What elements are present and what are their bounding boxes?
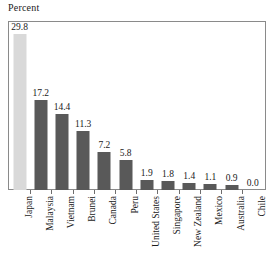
bar-slot: 11.3 — [73, 22, 94, 190]
chart-title: Percent — [8, 2, 39, 14]
bar-new-zealand[interactable] — [183, 183, 196, 190]
bar-value-label: 1.9 — [141, 168, 153, 179]
bar-brunei[interactable] — [77, 131, 90, 190]
axis-tick — [179, 190, 180, 194]
axis-tick — [136, 190, 137, 194]
bar-value-label: 14.4 — [54, 102, 71, 113]
bar-slot: 1.4 — [179, 22, 200, 190]
axis-tick — [30, 190, 31, 194]
bar-slot: 17.2 — [30, 22, 51, 190]
plot-area: 29.817.214.411.37.25.81.91.81.41.10.90.0 — [9, 22, 265, 190]
bar-united-states[interactable] — [140, 180, 153, 190]
category-label-new-zealand: New Zealand — [193, 196, 203, 247]
bar-slot: 1.9 — [136, 22, 157, 190]
axis-tick — [200, 190, 201, 194]
category-label-mexico: Mexico — [214, 196, 224, 225]
bar-singapore[interactable] — [161, 181, 174, 190]
bar-value-label: 17.2 — [32, 88, 49, 99]
bar-value-label: 0.0 — [247, 178, 259, 189]
bar-slot: 1.8 — [157, 22, 178, 190]
category-label-australia: Australia — [236, 196, 246, 231]
axis-tick — [221, 190, 222, 194]
bar-slot: 7.2 — [94, 22, 115, 190]
bar-slot: 0.0 — [242, 22, 263, 190]
bar-malaysia[interactable] — [34, 100, 47, 190]
axis-tick — [242, 190, 243, 194]
category-label-peru: Peru — [130, 196, 140, 213]
bar-value-label: 5.8 — [120, 148, 132, 159]
bar-value-label: 0.9 — [226, 173, 238, 184]
bar-slot: 14.4 — [51, 22, 72, 190]
bar-slot: 29.8 — [9, 22, 30, 190]
category-label-brunei: Brunei — [87, 196, 97, 222]
bar-slot: 1.1 — [200, 22, 221, 190]
bar-value-label: 1.4 — [183, 171, 195, 182]
bar-value-label: 7.2 — [98, 140, 110, 151]
category-label-chile: Chile — [257, 196, 267, 217]
axis-tick — [157, 190, 158, 194]
bar-mexico[interactable] — [204, 184, 217, 190]
category-label-malaysia: Malaysia — [45, 196, 55, 231]
bar-chart: Percent 29.817.214.411.37.25.81.91.81.41… — [0, 0, 275, 267]
bar-value-label: 1.1 — [204, 172, 216, 183]
bar-japan[interactable] — [13, 34, 26, 190]
axis-tick — [94, 190, 95, 194]
bar-value-label: 29.8 — [11, 22, 28, 33]
bar-vietnam[interactable] — [55, 114, 68, 190]
bar-slot: 0.9 — [221, 22, 242, 190]
bar-peru[interactable] — [119, 160, 132, 190]
axis-tick — [73, 190, 74, 194]
bar-slot: 5.8 — [115, 22, 136, 190]
bar-value-label: 11.3 — [75, 119, 91, 130]
category-label-singapore: Singapore — [172, 196, 182, 235]
bar-canada[interactable] — [98, 152, 111, 190]
category-label-united-states: United States — [151, 196, 161, 247]
axis-tick — [115, 190, 116, 194]
category-label-japan: Japan — [24, 196, 34, 218]
axis-tick — [51, 190, 52, 194]
category-label-canada: Canada — [108, 196, 118, 225]
category-label-vietnam: Vietnam — [66, 196, 76, 228]
bar-australia[interactable] — [225, 185, 238, 190]
bar-value-label: 1.8 — [162, 169, 174, 180]
